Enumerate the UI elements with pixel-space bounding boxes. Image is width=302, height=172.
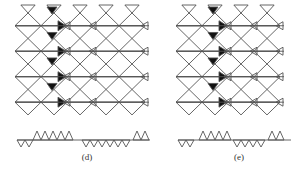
kagome-lattice-d xyxy=(0,0,151,172)
panel-e: (e) xyxy=(151,0,302,172)
kagome-lattice-e xyxy=(151,0,302,172)
caption-e: (e) xyxy=(224,152,254,162)
caption-d: (d) xyxy=(72,152,102,162)
panel-d: (d) xyxy=(0,0,151,172)
